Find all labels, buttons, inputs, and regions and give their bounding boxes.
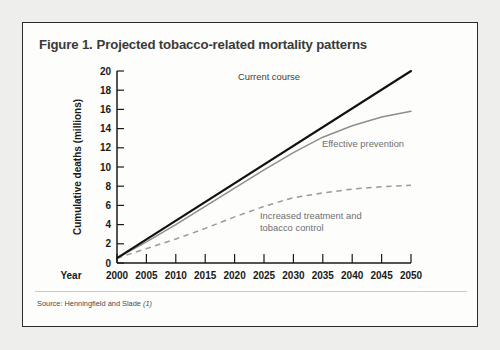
- x-tick-label: 2035: [312, 270, 335, 281]
- x-tick-label: 2025: [253, 270, 276, 281]
- y-tick-label: 0: [105, 258, 111, 269]
- x-tick-label: 2010: [165, 270, 188, 281]
- source-note: Source: Henningfield and Slade (1): [37, 299, 152, 308]
- source-citation: (1): [143, 299, 152, 308]
- annotation-current-course: Current course: [238, 71, 300, 82]
- annotation-increased-treatment-line1: Increased treatment and: [260, 210, 362, 221]
- x-tick-label: 2050: [400, 270, 423, 281]
- x-tick-label: 2040: [341, 270, 364, 281]
- y-tick-label: 6: [105, 200, 111, 211]
- y-tick-label: 20: [100, 66, 112, 77]
- y-tick-label: 14: [100, 123, 112, 134]
- y-tick-label: 2: [105, 238, 111, 249]
- annotation-increased-treatment-line2: tobacco control: [260, 222, 324, 233]
- source-divider: [35, 291, 467, 292]
- y-axis-ticks: [117, 71, 124, 263]
- y-tick-label: 4: [105, 219, 111, 230]
- source-text: Source: Henningfield and Slade: [37, 299, 141, 308]
- x-axis-ticks: [117, 254, 411, 263]
- y-axis-title: Cumulative deaths (millions): [72, 99, 83, 235]
- x-tick-label: 2000: [106, 270, 129, 281]
- x-tick-label: 2030: [282, 270, 305, 281]
- annotation-effective-prevention: Effective prevention: [322, 138, 404, 149]
- y-tick-label: 12: [100, 142, 112, 153]
- x-tick-label: 2045: [370, 270, 393, 281]
- y-tick-label: 8: [105, 181, 111, 192]
- y-axis-tick-labels: 0 2 4 6 8 10 12 14 16 18 20: [100, 66, 112, 269]
- series-line-effective-prevention: [117, 111, 411, 258]
- y-tick-label: 18: [100, 85, 112, 96]
- x-axis-title: Year: [60, 270, 81, 281]
- y-tick-label: 16: [100, 104, 112, 115]
- x-tick-label: 2015: [194, 270, 217, 281]
- x-axis-tick-labels: 2000 2005 2010 2015 2020 2025 2030 2035 …: [106, 270, 423, 281]
- chart-plot: 0 2 4 6 8 10 12 14 16 18 20 2000 2005 20…: [23, 23, 479, 328]
- x-tick-label: 2005: [135, 270, 158, 281]
- figure-card: Figure 1.Projected tobacco-related morta…: [22, 22, 478, 327]
- x-tick-label: 2020: [223, 270, 246, 281]
- y-tick-label: 10: [100, 162, 112, 173]
